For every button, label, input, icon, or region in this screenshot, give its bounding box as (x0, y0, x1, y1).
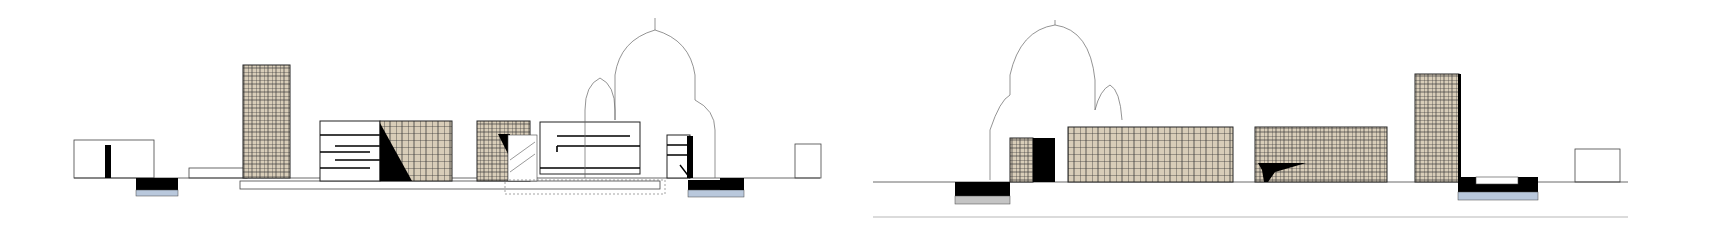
drawing-sheet (0, 0, 1709, 241)
right-elevation (873, 20, 1628, 217)
left-elevation (74, 18, 821, 197)
